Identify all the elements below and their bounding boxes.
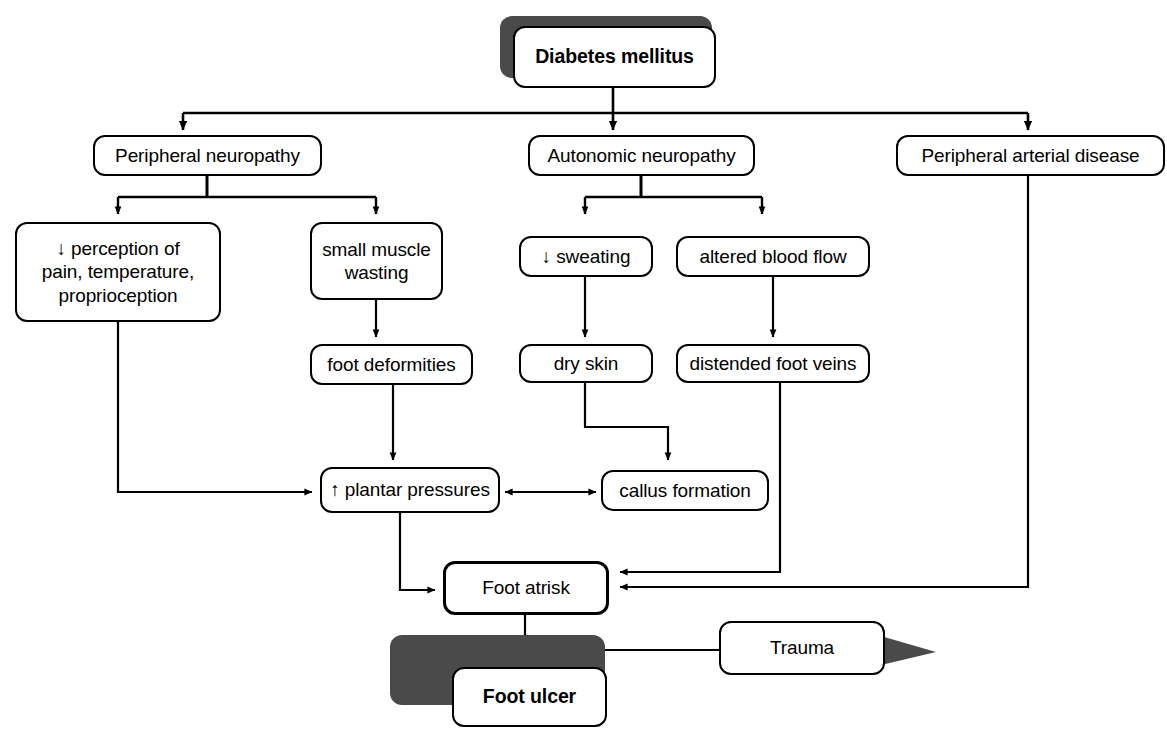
node-label: Foot ulcer: [483, 685, 576, 709]
node-label: foot deformities: [327, 353, 455, 376]
flowchart-canvas: Diabetes mellitus Peripheral neuropathy …: [0, 0, 1167, 743]
node-label: Foot atrisk: [482, 576, 570, 599]
node-small-muscle-wasting[interactable]: small muscle wasting: [310, 222, 443, 300]
node-label: small muscle wasting: [322, 238, 431, 284]
node-label: Diabetes mellitus: [535, 45, 694, 69]
node-distended-foot-veins[interactable]: distended foot veins: [676, 344, 870, 383]
node-label: Trauma: [770, 636, 834, 659]
node-label: Autonomic neuropathy: [547, 144, 735, 167]
node-peripheral-arterial-disease[interactable]: Peripheral arterial disease: [896, 135, 1165, 176]
node-diabetes-mellitus[interactable]: Diabetes mellitus: [513, 26, 716, 88]
node-label: ↓ sweating: [542, 245, 631, 268]
node-trauma[interactable]: Trauma: [719, 621, 885, 675]
node-autonomic-neuropathy[interactable]: Autonomic neuropathy: [528, 135, 755, 176]
node-reduced-perception[interactable]: ↓ perception of pain, temperature, propr…: [15, 222, 221, 322]
node-foot-ulcer[interactable]: Foot ulcer: [452, 667, 607, 727]
node-increased-plantar-pressures[interactable]: ↑ plantar pressures: [320, 467, 500, 513]
node-callus-formation[interactable]: callus formation: [601, 470, 769, 511]
node-label: distended foot veins: [689, 352, 856, 375]
node-foot-at-risk[interactable]: Foot atrisk: [443, 561, 609, 615]
node-label: Peripheral arterial disease: [921, 144, 1139, 167]
node-label: ↑ plantar pressures: [330, 478, 490, 501]
node-label: Peripheral neuropathy: [115, 144, 300, 167]
node-foot-deformities[interactable]: foot deformities: [310, 344, 473, 385]
node-peripheral-neuropathy[interactable]: Peripheral neuropathy: [93, 135, 322, 176]
node-reduced-sweating[interactable]: ↓ sweating: [519, 236, 653, 277]
node-label: altered blood flow: [699, 245, 846, 268]
node-label: callus formation: [619, 479, 750, 502]
node-label: ↓ perception of pain, temperature, propr…: [42, 237, 194, 307]
node-label: dry skin: [554, 352, 619, 375]
node-dry-skin[interactable]: dry skin: [519, 344, 653, 383]
node-altered-blood-flow[interactable]: altered blood flow: [676, 236, 870, 277]
